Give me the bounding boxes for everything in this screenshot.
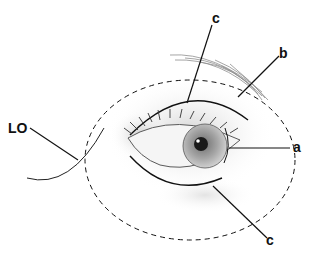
lo-curve (27, 128, 104, 180)
label-a: a (293, 140, 301, 154)
label-lo: LO (8, 121, 27, 135)
eye-diagram: LO c b a c (0, 0, 310, 253)
label-c-top: c (212, 11, 220, 25)
label-c-bottom: c (266, 233, 274, 247)
highlight (196, 139, 200, 143)
pupil (194, 137, 208, 151)
diagram-svg (0, 0, 310, 253)
leader-line-lo (30, 128, 78, 160)
label-b: b (279, 46, 288, 60)
